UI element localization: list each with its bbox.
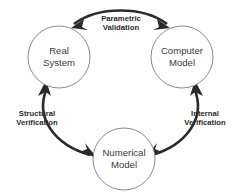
edge-structural-verification: Structural Verification	[16, 80, 97, 158]
parametric-validation-label-line2: Validation	[103, 23, 140, 32]
parametric-validation-label-line1: Parametric	[101, 14, 141, 23]
internal-verification-label-line1: Internal	[191, 109, 219, 118]
node-numerical-model[interactable]: Numerical Model	[93, 128, 155, 190]
node-computer-model[interactable]: Computer Model	[151, 26, 213, 88]
edge-parametric-validation: Parametric Validation	[71, 11, 170, 33]
numerical-model-label-line2: Model	[111, 159, 137, 170]
computer-model-label-line1: Computer	[161, 45, 204, 56]
real-system-label-line2: System	[43, 57, 75, 68]
node-real-system[interactable]: Real System	[28, 26, 90, 88]
vv-cycle-diagram: Parametric Validation Structural Verific…	[0, 0, 242, 193]
structural-verification-label-line2: Verification	[16, 118, 58, 127]
numerical-model-label-line1: Numerical	[102, 147, 145, 158]
real-system-label-line1: Real	[49, 45, 69, 56]
edge-internal-verification: Internal Verification	[145, 80, 226, 158]
diagram-canvas: Parametric Validation Structural Verific…	[0, 0, 242, 193]
computer-model-label-line2: Model	[169, 57, 195, 68]
internal-verification-label-line2: Verification	[184, 118, 226, 127]
structural-verification-label-line1: Structural	[19, 109, 55, 118]
